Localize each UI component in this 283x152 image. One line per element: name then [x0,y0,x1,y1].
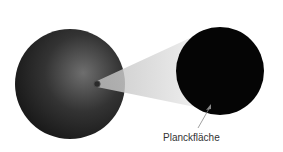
planck-surface-disk [176,27,264,115]
planck-surface-label: Planckfläche [163,132,220,143]
small-region-circle [94,81,100,87]
planck-diagram: Planckfläche [0,0,283,152]
diagram-graphic [0,0,283,152]
